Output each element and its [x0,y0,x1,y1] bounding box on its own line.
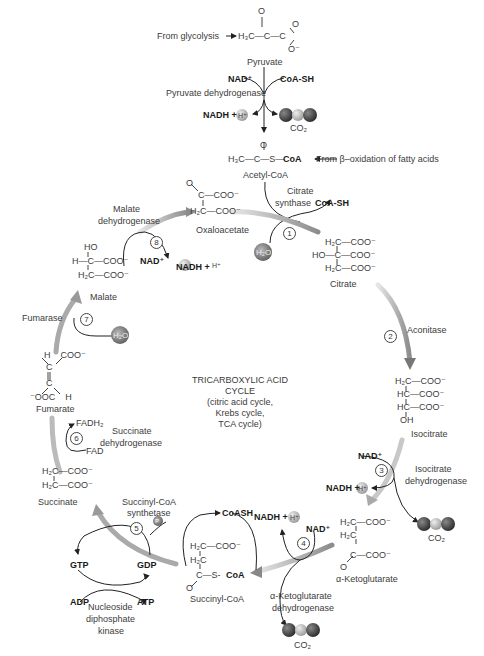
step1-coash-label: CoA-SH [315,198,349,209]
step4-h-label: H⁺ [290,512,299,523]
co2-molecule-icon [417,517,455,531]
acetyl-coa-label: Acetyl-CoA [243,170,288,181]
acetyl-o: O [260,140,267,151]
idh-label-2: dehydrogenase [405,476,467,487]
citrate-label: Citrate [330,279,357,290]
adp-label: ADP [70,597,89,608]
pyruvate-o-minus: O⁻ [288,44,300,55]
isocitrate-l1: H₂C—COO⁻ [395,376,446,387]
cycle-title-line5: TCA cycle) [180,419,300,430]
akg-l1: H₂C—COO⁻ [340,517,391,528]
akg-label: α-Ketoglutarate [336,574,398,585]
succinylcoa-l2: H₂C [190,555,207,566]
step3-nadh-label: NADH + [326,483,360,494]
cycle-title-line3: (citric acid cycle, [180,397,300,408]
step6-fadh2-label: FADH₂ [76,418,104,429]
coash-label: CoASH [222,508,253,519]
malate-label: Malate [90,292,117,303]
succinylcoa-label: Succinyl-CoA [190,594,244,605]
step-3-badge: 3 [375,464,388,477]
step-6-badge: 6 [70,432,83,445]
step3-co2-label: CO₂ [428,533,445,544]
step3-h-label: H⁺ [358,483,367,494]
akg-l3: C—COO⁻ [350,550,391,561]
step-4-badge: 4 [297,537,310,550]
isocitrate-l2: HC—COO⁻ [397,389,444,400]
citrate-l2: HO—C—COO⁻ [312,250,375,261]
pyruvate-label: Pyruvate [247,57,283,68]
succinate-l2: H₂C—COO⁻ [42,480,93,491]
step-5-badge: 5 [130,522,143,535]
succinate-label: Succinate [38,497,78,508]
co2-molecule-icon [282,623,320,637]
aconitase-label: Aconitase [407,325,447,336]
akgdh-label-1: α-Ketoglutarate [270,591,332,602]
tca-cycle-diagram: From glycolysis O H₃C—C—C O O⁻ Pyruvate … [0,0,484,656]
succinylcoa-l3: C—S- [196,570,221,581]
scs-label-1: Succinyl-CoA [122,497,176,508]
from-glycolysis-label: From glycolysis [157,31,219,42]
step8-nadh-label: NADH + [176,262,210,273]
oxaloacetate-l2: C—COO⁻ [198,190,239,201]
step8-h-label: H⁺ [212,260,221,271]
atp-label: ATP [137,597,154,608]
citrate-synthase-label-1: Citrate [287,186,314,197]
mdh-label-1: Malate [113,204,140,215]
scs-label-2: synthetase [127,508,171,519]
pdh-enzyme-label: Pyruvate dehydrogenase [166,88,266,99]
akg-l2: H₂C [340,530,357,541]
fumarate-label: Fumarate [36,404,75,415]
sdh-label-2: dehydrogenase [100,438,162,449]
akgdh-label-2: dehydrogenase [272,603,334,614]
isocitrate-oh: OH [400,415,414,426]
succinylcoa-coa: CoA [226,570,245,581]
fumarate-c2: C [46,378,53,389]
ndk-label-1: Nucleoside [88,602,133,613]
succinylcoa-o: O [186,583,193,594]
step-8-badge: 8 [150,236,163,249]
sdh-label-1: Succinate [112,426,152,437]
step-7-badge: 7 [80,313,93,326]
gtp-label: GTP [70,560,89,571]
idh-label-1: Isocitrate [415,464,452,475]
cycle-title-line2: CYCLE [180,386,300,397]
cycle-title-line4: Krebs cycle, [180,408,300,419]
step6-fad-label: FAD [86,446,104,457]
fumarase-label: Fumarase [22,313,63,324]
pyruvate-formula: H₃C—C—C [238,31,286,42]
phosphate-label: P [155,516,159,527]
cycle-title: TRICARBOXYLIC ACID CYCLE (citric acid cy… [180,375,300,430]
fumarate-l4: ⁻OOC H [30,392,72,403]
oxaloacetate-o: O [186,178,193,189]
mdh-label-2: dehydrogenase [98,216,160,227]
citrate-l3: H₂C—COO⁻ [325,263,376,274]
cycle-title-line1: TRICARBOXYLIC ACID [180,375,300,386]
step4-nadh-label: NADH + [254,512,288,523]
pyruvate-o-top: O [258,6,265,17]
acetyl-coa-bold: CoA [283,154,302,165]
citrate-l1: H₂C—COO⁻ [325,237,376,248]
oxaloacetate-l3: H₂C—COO⁻ [190,206,241,217]
step1-h2o-label: H₂O [256,247,271,258]
step8-nad-label: NAD⁺ [140,256,164,267]
akg-o: O [340,562,347,573]
oxaloacetate-label: Oxaloacetate [196,225,249,236]
co2-molecule-icon [279,108,317,122]
from-beta-ox-label: From β–oxidation of fatty acids [316,154,439,165]
gdp-label: GDP [137,560,157,571]
step-2-badge: 2 [384,330,397,343]
malate-l3: H₂C—COO⁻ [78,270,129,281]
ndk-label-2: diphosphate [86,614,135,625]
acetyl-formula: H₃C—C—S— [228,154,284,165]
step4-nad-label: NAD⁺ [306,524,330,535]
pyruvate-o-right: O [292,19,299,30]
citrate-synthase-label-2: synthase [275,198,311,209]
malate-l2: H—C—COO⁻ [72,256,128,267]
malate-ho: HO [84,242,98,253]
isocitrate-l3: HC—COO⁻ [397,402,444,413]
ndk-label-3: kinase [98,626,124,637]
pdh-co2-label: CO₂ [290,123,307,134]
pdh-coash-label: CoA-SH [280,74,314,85]
pdh-nadh-label: NADH + [203,110,237,121]
succinylcoa-l1: H₂C—COO⁻ [190,541,241,552]
